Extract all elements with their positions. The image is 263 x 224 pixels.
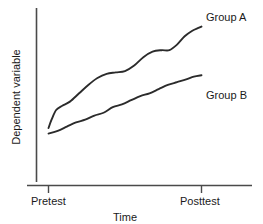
chart-canvas: Group A Group B Pretest Posttest Time De… [0, 0, 263, 224]
series-label-group-a: Group A [206, 11, 247, 23]
line-chart: Group A Group B Pretest Posttest Time De… [0, 0, 263, 224]
series-line-group-b [49, 75, 202, 133]
x-axis-title: Time [113, 211, 137, 223]
x-tick-label-posttest: Posttest [180, 195, 220, 207]
y-axis-title: Dependent variable [10, 49, 22, 144]
series-line-group-a [49, 27, 202, 128]
x-tick-label-pretest: Pretest [31, 195, 66, 207]
series-label-group-b: Group B [206, 89, 247, 101]
